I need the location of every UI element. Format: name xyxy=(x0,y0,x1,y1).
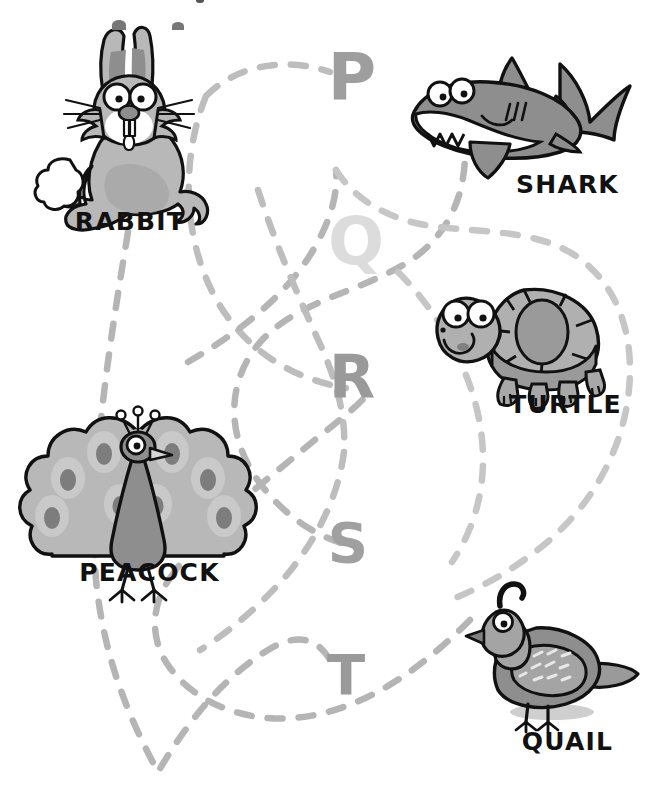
animal-label-quail: QUAIL xyxy=(470,727,664,756)
animal-label-rabbit: RABBIT xyxy=(30,207,230,236)
worksheet-canvas: P Q R S T xyxy=(0,0,664,810)
rabbit-illustration[interactable] xyxy=(35,27,207,230)
animal-label-peacock: PEACOCK xyxy=(42,558,257,587)
shark-illustration[interactable] xyxy=(412,58,630,178)
animal-label-turtle: TURTLE xyxy=(468,390,663,419)
quail-illustration[interactable] xyxy=(466,584,638,732)
clipped-title-fragment-3 xyxy=(172,22,184,30)
animal-label-shark: SHARK xyxy=(470,170,664,199)
clipped-title-fragment-2 xyxy=(112,20,126,30)
